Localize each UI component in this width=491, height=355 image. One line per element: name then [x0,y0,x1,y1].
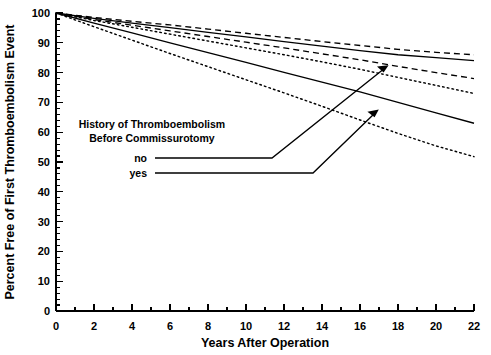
thromboembolism-freedom-chart: 0102030405060708090100 02468101214161820… [0,0,491,355]
x-tick-label-14: 14 [316,320,329,332]
y-tick-label-80: 80 [38,67,50,79]
y-tick-label-30: 30 [38,216,50,228]
y-tick-label-90: 90 [38,37,50,49]
y-tick-label-100: 100 [32,7,50,19]
x-tick-label-0: 0 [53,320,59,332]
y-tick-label-10: 10 [38,275,50,287]
y-tick-label-0: 0 [44,305,50,317]
x-tick-label-8: 8 [205,320,211,332]
y-tick-label-20: 20 [38,245,50,257]
x-axis-title: Years After Operation [201,336,329,350]
y-tick-label-50: 50 [38,156,50,168]
x-tick-label-6: 6 [167,320,173,332]
x-tick-label-22: 22 [468,320,480,332]
legend-item-label-no: no [134,152,147,164]
chart-figure: 0102030405060708090100 02468101214161820… [0,0,491,355]
y-axis-title: Percent Free of First Thromboembolism Ev… [3,24,17,300]
x-tick-label-16: 16 [354,320,366,332]
y-tick-label-40: 40 [38,186,50,198]
y-tick-label-70: 70 [38,96,50,108]
x-tick-label-18: 18 [392,320,404,332]
chart-background [0,0,491,355]
x-tick-label-2: 2 [91,320,97,332]
legend-title-line-2: Before Commissurotomy [89,132,215,144]
x-tick-label-20: 20 [430,320,442,332]
y-tick-label-60: 60 [38,126,50,138]
legend-item-label-yes: yes [129,167,147,179]
x-tick-label-12: 12 [278,320,290,332]
x-tick-label-10: 10 [240,320,252,332]
legend-title-line-1: History of Thromboembolism [79,118,225,130]
x-tick-label-4: 4 [129,320,136,332]
